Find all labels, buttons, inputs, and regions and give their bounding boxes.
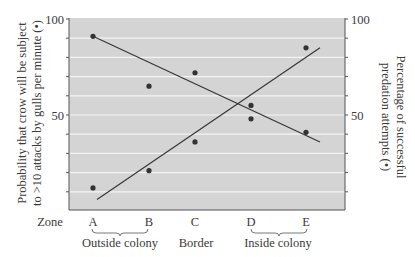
x-category-e: E bbox=[302, 215, 310, 229]
group-label-border: Border bbox=[179, 236, 215, 250]
x-category-labels: ABCDE bbox=[88, 215, 310, 229]
data-point-d bbox=[248, 116, 253, 121]
data-point-b bbox=[146, 84, 151, 89]
group-label-outside-colony: Outside colony bbox=[82, 236, 159, 250]
x-category-a: A bbox=[88, 215, 97, 229]
y-left-tick-50: 50 bbox=[52, 109, 65, 123]
y-left-tick-100: 100 bbox=[45, 13, 64, 27]
data-point-a bbox=[90, 34, 95, 39]
data-point-c bbox=[192, 139, 197, 144]
y-axis-label-left: Probability that crow will be subject to… bbox=[15, 20, 45, 206]
data-point-c bbox=[192, 70, 197, 75]
y-axis-label-right-line1: Percentage of successful bbox=[393, 56, 408, 179]
data-point-e bbox=[303, 45, 308, 50]
data-point-e bbox=[303, 130, 308, 135]
y-axis-label-left-line2: to >10 attacks by gulls per minute (•) bbox=[30, 20, 45, 206]
data-point-b bbox=[146, 168, 151, 173]
x-axis-label-zone: Zone bbox=[37, 215, 63, 229]
y-axis-label-right-line2: predation attempts (•) bbox=[378, 56, 393, 179]
group-label-inside-colony: Inside colony bbox=[244, 236, 312, 250]
y-axis-label-right: Percentage of successful predation attem… bbox=[378, 56, 408, 179]
data-point-a bbox=[90, 185, 95, 190]
brace-outside-colony bbox=[92, 229, 148, 236]
x-category-c: C bbox=[191, 215, 199, 229]
x-category-d: D bbox=[246, 215, 255, 229]
y-right-tick-100: 100 bbox=[351, 13, 370, 27]
x-category-b: B bbox=[145, 215, 153, 229]
data-point-d bbox=[248, 103, 253, 108]
y-axis-label-left-line1: Probability that crow will be subject bbox=[15, 20, 30, 206]
chart-svg: 100 50 100 50 Zone ABCDE Outside colony … bbox=[0, 0, 415, 257]
brace-inside-colony bbox=[251, 229, 307, 236]
y-right-tick-50: 50 bbox=[351, 109, 364, 123]
